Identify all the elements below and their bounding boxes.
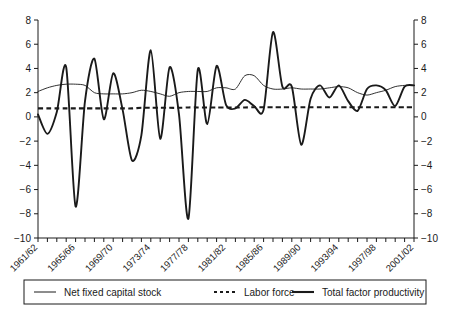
y-axis-left-tick-label: 0: [25, 111, 31, 122]
y-axis-left-tick-label: 4: [25, 63, 31, 74]
y-axis-left-tick-label: −10: [14, 233, 31, 244]
y-axis-left-tick-label: −8: [20, 208, 32, 219]
y-axis-right-tick-label: 6: [421, 39, 427, 50]
y-axis-right-tick-label: 8: [421, 15, 427, 26]
y-axis-right-tick-label: 4: [421, 63, 427, 74]
chart-legend: Net fixed capital stockLabor forceTotal …: [24, 280, 426, 304]
y-axis-left-tick-label: −2: [20, 136, 32, 147]
chart-container: 86420−2−4−6−8−10 86420−2−4−6−8−10 1961/6…: [0, 0, 450, 314]
y-axis-right-tick-label: −6: [421, 184, 433, 195]
y-axis-left-tick-label: 6: [25, 39, 31, 50]
y-axis-left-tick-label: −4: [20, 160, 32, 171]
legend-label-3: Total factor productivity: [322, 287, 424, 298]
line-chart: 86420−2−4−6−8−10 86420−2−4−6−8−10 1961/6…: [0, 0, 450, 314]
y-axis-right-tick-label: −10: [421, 233, 438, 244]
y-axis-right-tick-label: −4: [421, 160, 433, 171]
y-axis-left-tick-label: 2: [25, 87, 31, 98]
y-axis-left-tick-label: 8: [25, 15, 31, 26]
legend-label-1: Net fixed capital stock: [64, 287, 162, 298]
chart-background: [0, 0, 450, 314]
y-axis-right-tick-label: 0: [421, 111, 427, 122]
y-axis-right-tick-label: −8: [421, 208, 433, 219]
legend-label-2: Labor force: [244, 287, 295, 298]
y-axis-right-tick-label: −2: [421, 136, 433, 147]
y-axis-left-tick-label: −6: [20, 184, 32, 195]
y-axis-right-tick-label: 2: [421, 87, 427, 98]
